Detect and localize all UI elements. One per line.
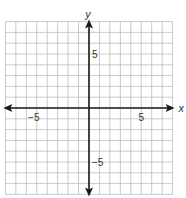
y-axis-label: y	[84, 8, 92, 20]
x-tick-label: 5	[138, 112, 144, 123]
y-tick-label: −5	[92, 157, 104, 168]
coordinate-plane: xy−555−5	[0, 0, 186, 198]
axes	[3, 20, 174, 197]
x-tick-label: −5	[28, 112, 40, 123]
axis-labels: xy−555−5	[28, 8, 185, 168]
coordinate-grid-svg: xy−555−5	[0, 0, 186, 198]
y-tick-label: 5	[92, 49, 98, 60]
x-axis-label: x	[178, 102, 185, 114]
